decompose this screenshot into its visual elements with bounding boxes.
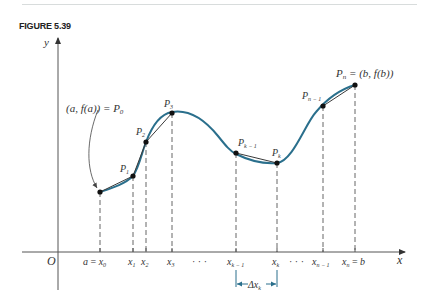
- x-ticks: [100, 248, 355, 252]
- x-axis-label: x: [396, 253, 403, 267]
- start-pointer-arrow: [89, 110, 98, 188]
- label-P2: P2: [135, 126, 145, 138]
- tick-xk: xk: [271, 256, 279, 268]
- tick-x3: x3: [166, 256, 174, 268]
- tick-xn: xn = b: [341, 256, 365, 268]
- ellipsis-1: · · ·: [192, 256, 207, 267]
- label-Pk: Pk: [271, 147, 281, 159]
- tick-xn-1: xn − 1: [311, 256, 330, 268]
- y-axis-label: y: [43, 36, 49, 48]
- start-point-label: (a, f(a)) = P0: [66, 102, 124, 116]
- label-P1: P1: [119, 163, 129, 175]
- origin-label: O: [47, 254, 56, 268]
- label-P3: P3: [163, 98, 173, 110]
- label-Pk-1: Pk − 1: [237, 137, 257, 149]
- tick-x0: a = x0: [83, 256, 106, 268]
- chord-n: [323, 85, 355, 106]
- riemann-arc-diagram: y x O (a, f(a)) = P0 P1 P2 P3 Pk − 1 Pk …: [0, 0, 425, 307]
- ellipsis-2: · · ·: [289, 256, 304, 267]
- tick-x2: x2: [140, 256, 148, 268]
- label-Pn-1: Pn − 1: [301, 90, 321, 102]
- tick-x1: x1: [127, 256, 135, 268]
- delta-x-label: Δxk: [247, 279, 261, 291]
- end-point-label: Pn = (b, f(b)): [335, 67, 394, 81]
- chord-polyline-left: [100, 113, 172, 192]
- tick-xk-1: xk − 1: [226, 256, 244, 268]
